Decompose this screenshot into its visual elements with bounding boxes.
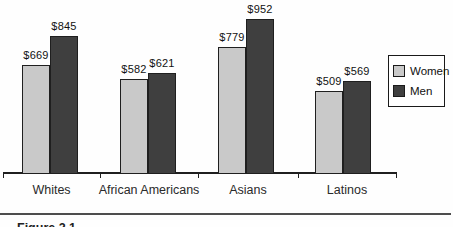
bar-african-americans-men bbox=[148, 73, 176, 174]
value-label-asians-men: $952 bbox=[235, 3, 285, 15]
figure-caption: Figure 2.1 bbox=[17, 221, 76, 227]
legend-item-men: Men bbox=[393, 85, 440, 97]
women-swatch-icon bbox=[393, 65, 405, 77]
bar-african-americans-women bbox=[120, 79, 148, 174]
bar-latinos-women bbox=[315, 91, 343, 174]
legend-item-women: Women bbox=[393, 65, 440, 77]
legend-label-men: Men bbox=[410, 85, 432, 97]
x-axis-tick-0 bbox=[3, 172, 4, 178]
x-axis-tick-4 bbox=[396, 172, 397, 178]
x-axis-tick-2 bbox=[198, 172, 199, 178]
men-swatch-icon bbox=[393, 85, 405, 97]
x-axis-tick-3 bbox=[298, 172, 299, 178]
bar-asians-women bbox=[218, 47, 246, 174]
x-axis-tick-1 bbox=[100, 172, 101, 178]
legend: Women Men bbox=[388, 55, 445, 107]
bottom-divider bbox=[0, 213, 451, 215]
bar-whites-women bbox=[22, 65, 50, 174]
bar-whites-men bbox=[50, 36, 78, 174]
category-label-latinos: Latinos bbox=[277, 183, 417, 197]
legend-label-women: Women bbox=[410, 65, 449, 77]
earnings-bar-chart-figure: $669$582$779$509$845$621$952$569WhitesAf… bbox=[0, 0, 453, 227]
value-label-latinos-men: $569 bbox=[332, 65, 382, 77]
value-label-african-americans-men: $621 bbox=[137, 57, 187, 69]
bar-asians-men bbox=[246, 19, 274, 174]
bar-latinos-men bbox=[343, 81, 371, 174]
value-label-whites-men: $845 bbox=[39, 20, 89, 32]
